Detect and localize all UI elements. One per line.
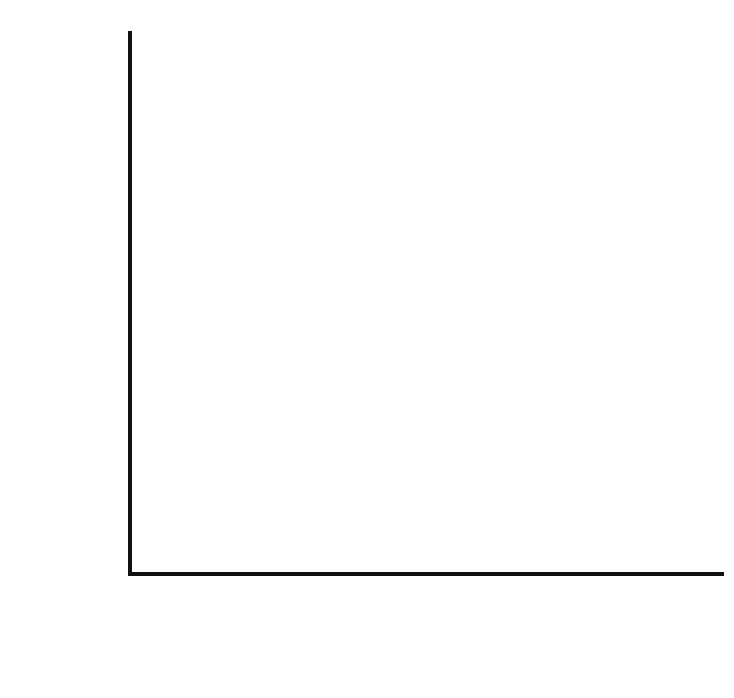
bar-group [0,0,734,698]
chart-figure [0,0,734,698]
